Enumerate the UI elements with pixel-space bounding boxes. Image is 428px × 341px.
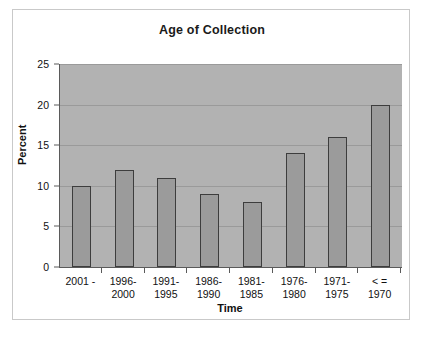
x-axis-tick-label: 1991- 1995 bbox=[145, 275, 188, 300]
plot-area bbox=[59, 64, 402, 268]
x-axis-tick-cell bbox=[316, 268, 359, 273]
bar-slot bbox=[359, 64, 402, 267]
x-axis-tick-cell bbox=[230, 268, 273, 273]
x-axis-tick-label: 1971- 1975 bbox=[316, 275, 359, 300]
x-axis-tick-label: 1976- 1980 bbox=[273, 275, 316, 300]
chart-frame: Age of Collection Percent 0510152025 200… bbox=[12, 9, 410, 320]
x-axis-tick-cell bbox=[102, 268, 145, 273]
bar[interactable] bbox=[371, 105, 390, 267]
x-axis-title: Time bbox=[59, 302, 401, 314]
bar[interactable] bbox=[157, 178, 176, 267]
bar[interactable] bbox=[328, 137, 347, 267]
chart-title: Age of Collection bbox=[13, 23, 411, 37]
x-axis-tick-cell bbox=[59, 268, 102, 273]
bar[interactable] bbox=[200, 194, 219, 267]
bar-slot bbox=[60, 64, 103, 267]
bar-series bbox=[60, 64, 402, 267]
y-axis: 0510152025 bbox=[13, 64, 59, 268]
x-axis-tick-mark bbox=[400, 268, 401, 273]
x-axis-tick-label: 1986- 1990 bbox=[187, 275, 230, 300]
bar-slot bbox=[188, 64, 231, 267]
x-axis-tick-label: 1981- 1985 bbox=[230, 275, 273, 300]
x-axis-tick-cell bbox=[187, 268, 230, 273]
x-axis-tick-label: 2001 - bbox=[59, 275, 102, 300]
y-axis-tick-label: 5 bbox=[43, 220, 49, 232]
x-axis-ticks bbox=[59, 268, 401, 273]
x-axis-tick-cell bbox=[358, 268, 401, 273]
x-axis-tick-labels: 2001 -1996- 20001991- 19951986- 19901981… bbox=[59, 275, 401, 300]
y-axis-tick-label: 10 bbox=[37, 180, 49, 192]
bar[interactable] bbox=[243, 202, 262, 267]
y-axis-tick-label: 20 bbox=[37, 99, 49, 111]
bar-slot bbox=[103, 64, 146, 267]
y-axis-tick-label: 25 bbox=[37, 58, 49, 70]
bar-slot bbox=[146, 64, 189, 267]
x-axis-tick-label: 1996- 2000 bbox=[102, 275, 145, 300]
x-axis-tick-label: < = 1970 bbox=[358, 275, 401, 300]
bar[interactable] bbox=[115, 170, 134, 267]
y-axis-tick-label: 0 bbox=[43, 261, 49, 273]
x-axis-tick-cell bbox=[145, 268, 188, 273]
bar-slot bbox=[231, 64, 274, 267]
bar-slot bbox=[274, 64, 317, 267]
bar-slot bbox=[317, 64, 360, 267]
y-axis-tick-label: 15 bbox=[37, 139, 49, 151]
bar[interactable] bbox=[286, 153, 305, 267]
bar[interactable] bbox=[72, 186, 91, 267]
x-axis-tick-cell bbox=[273, 268, 316, 273]
